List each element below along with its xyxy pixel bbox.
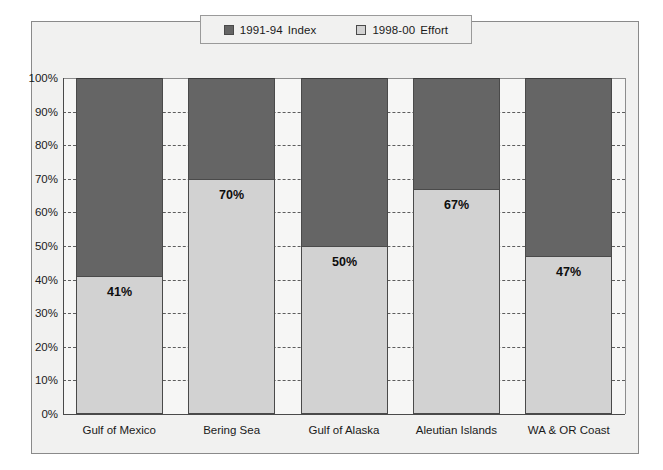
bar-segment-effort[interactable] (301, 246, 388, 414)
bar-value-label: 67% (413, 198, 500, 212)
legend-swatch-icon (356, 25, 366, 35)
x-axis-label-1: Gulf of Mexico (63, 424, 175, 436)
y-axis-tick-100: 100% (18, 72, 58, 84)
bar-value-label: 50% (301, 255, 388, 269)
bar-segment-index[interactable] (301, 78, 388, 246)
legend-item-2[interactable]: 1998-00Effort (356, 24, 448, 36)
legend-item-1[interactable]: 1991-94Index (224, 24, 317, 36)
x-axis-label-5: WA & OR Coast (513, 424, 625, 436)
x-axis-category-labels: Gulf of MexicoBering SeaGulf of AlaskaAl… (63, 424, 625, 444)
bar-group[interactable]: 41% (76, 78, 163, 414)
y-axis-tick-10: 10% (18, 374, 58, 386)
y-axis-tick-labels: 100%90%80%70%60%50%40%30%20%10%0% (14, 78, 58, 414)
stacked-bar-chart: 1991-94Index1998-00Effort 100%90%80%70%6… (0, 0, 663, 470)
bar-group[interactable]: 50% (301, 78, 388, 414)
bar-value-label: 70% (188, 188, 275, 202)
y-axis-tick-0: 0% (18, 408, 58, 420)
bar-segment-index[interactable] (76, 78, 163, 276)
legend-item-label: 1991-94Index (240, 24, 317, 36)
x-axis-label-4: Aleutian Islands (400, 424, 512, 436)
bar-segment-effort[interactable] (413, 189, 500, 414)
y-axis-tick-20: 20% (18, 341, 58, 353)
bar-segment-index[interactable] (525, 78, 612, 256)
y-axis-tick-40: 40% (18, 274, 58, 286)
plot-right-border (625, 78, 626, 414)
x-axis-label-2: Bering Sea (175, 424, 287, 436)
y-axis-tick-60: 60% (18, 206, 58, 218)
bar-segment-index[interactable] (413, 78, 500, 189)
y-axis-tick-80: 80% (18, 139, 58, 151)
y-axis-tick-70: 70% (18, 173, 58, 185)
chart-legend: 1991-94Index1998-00Effort (200, 15, 472, 44)
y-axis-tick-90: 90% (18, 106, 58, 118)
y-axis-tick-50: 50% (18, 240, 58, 252)
bar-segment-index[interactable] (188, 78, 275, 179)
bar-segment-effort[interactable] (525, 256, 612, 414)
bar-group[interactable]: 67% (413, 78, 500, 414)
plot-area: 41%70%50%67%47% (63, 78, 625, 414)
y-axis-tick-30: 30% (18, 307, 58, 319)
x-axis-label-3: Gulf of Alaska (288, 424, 400, 436)
bar-group[interactable]: 47% (525, 78, 612, 414)
y-axis-line (63, 78, 64, 414)
bar-value-label: 47% (525, 265, 612, 279)
gridline-0 (63, 414, 625, 415)
bar-value-label: 41% (76, 285, 163, 299)
bar-group[interactable]: 70% (188, 78, 275, 414)
legend-item-label: 1998-00Effort (372, 24, 448, 36)
legend-swatch-icon (224, 25, 234, 35)
bar-segment-effort[interactable] (188, 179, 275, 414)
